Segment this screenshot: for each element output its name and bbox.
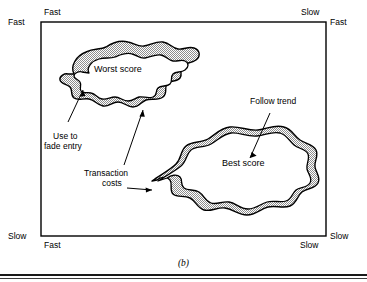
axis-label-top-right-outer: Fast	[330, 17, 347, 27]
annotation-transaction-costs-line1: Transaction	[84, 168, 128, 178]
footer-rule-thick	[0, 274, 367, 276]
best-score-region	[152, 126, 319, 215]
footer-rule-thin	[0, 278, 367, 279]
axis-label-top-left-inner: Fast	[44, 7, 61, 17]
region-label-worst-score: Worst score	[94, 64, 142, 74]
annotation-transaction-costs-line2: costs	[102, 178, 122, 188]
annotation-use-to-fade-entry-line1: Use to	[53, 131, 78, 141]
axis-label-bottom-left-outer: Slow	[8, 231, 26, 241]
axis-label-top-right-inner: Slow	[301, 7, 319, 17]
region-label-best-score: Best score	[222, 158, 265, 168]
axis-label-bottom-right-outer: Slow	[330, 231, 348, 241]
figure-caption: (b)	[0, 258, 367, 268]
axis-label-bottom-left-inner: Fast	[44, 240, 61, 250]
axis-label-bottom-right-inner: Slow	[300, 240, 318, 250]
arrowhead-transaction-costs-lower	[146, 187, 152, 192]
annotation-use-to-fade-entry-line2: fade entry	[44, 141, 82, 151]
worst-score-region	[60, 41, 199, 107]
figure-container: Fast Fast Slow Fast Slow Fast Slow Slow …	[0, 0, 367, 282]
annotation-follow-trend: Follow trend	[250, 96, 296, 106]
best-score-inner-shape	[158, 132, 311, 209]
axis-label-top-left-outer: Fast	[8, 17, 25, 27]
arrowhead-transaction-costs-upper	[139, 110, 144, 117]
leader-transaction-costs-upper	[124, 110, 143, 165]
